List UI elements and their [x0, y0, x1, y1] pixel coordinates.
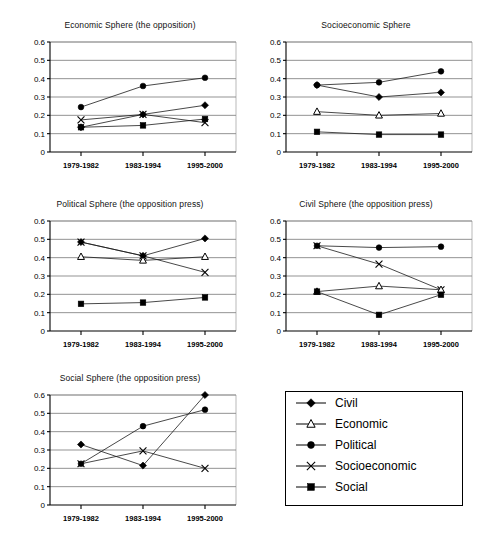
- legend-item-socioeconomic[interactable]: Socioeconomic: [286, 455, 462, 476]
- marker-circle: [376, 245, 382, 251]
- y-axis-tick-label: 0.3: [34, 272, 46, 281]
- marker-square: [438, 292, 444, 298]
- y-axis-tick-label: 0.6: [270, 217, 282, 226]
- marker-square: [78, 124, 84, 130]
- chart-title: Civil Sphere (the opposition press): [250, 199, 482, 209]
- y-axis-tick-label: 0.5: [34, 235, 46, 244]
- figure-sheet: Economic Sphere (the opposition) 00.10.2…: [0, 0, 490, 539]
- chart-panel-civil-sphere: Civil Sphere (the opposition press) 00.1…: [250, 199, 482, 371]
- series-line-civil: [81, 395, 205, 466]
- x-axis-tick-label: 1979-1982: [299, 161, 335, 170]
- marker-square: [202, 116, 208, 122]
- y-axis-tick-label: 0.3: [34, 446, 46, 455]
- marker-circle: [376, 79, 382, 85]
- marker-circle: [140, 423, 146, 429]
- y-axis-tick-label: 0.5: [270, 56, 282, 65]
- marker-circle: [140, 83, 146, 89]
- y-axis-tick-label: 0: [277, 327, 282, 336]
- chart-panel-economic-sphere: Economic Sphere (the opposition) 00.10.2…: [14, 20, 246, 192]
- marker-circle: [78, 104, 84, 110]
- legend-item-label: Socioeconomic: [335, 459, 416, 473]
- chart-svg-1: 00.10.20.30.40.50.61979-19821983-1994199…: [250, 30, 482, 182]
- chart-svg-3: 00.10.20.30.40.50.61979-19821983-1994199…: [250, 209, 482, 361]
- marker-square: [140, 300, 146, 306]
- chart-svg-4: 00.10.20.30.40.50.61979-19821983-1994199…: [14, 383, 246, 535]
- marker-triangle: [78, 253, 85, 259]
- y-axis-tick-label: 0.6: [270, 38, 282, 47]
- marker-circle: [438, 68, 444, 74]
- chart-title: Economic Sphere (the opposition): [14, 20, 246, 30]
- x-axis-tick-label: 1983-1994: [125, 161, 162, 170]
- legend-item-civil[interactable]: Civil: [286, 392, 462, 413]
- x-axis-tick-label: 1995-2000: [187, 340, 223, 349]
- x-axis-tick-label: 1983-1994: [361, 340, 398, 349]
- chart-panel-socioeconomic-sphere: Socioeconomic Sphere 00.10.20.30.40.50.6…: [250, 20, 482, 192]
- y-axis-tick-label: 0: [277, 148, 282, 157]
- marker-triangle: [438, 110, 445, 116]
- marker-triangle: [202, 253, 209, 259]
- marker-square: [78, 301, 84, 307]
- y-axis-tick-label: 0.1: [270, 309, 282, 318]
- chart-plot: 00.10.20.30.40.50.61979-19821983-1994199…: [14, 383, 246, 535]
- y-axis-tick-label: 0.1: [270, 130, 282, 139]
- marker-circle: [438, 244, 444, 250]
- chart-legend: CivilEconomicPoliticalSocioeconomicSocia…: [285, 391, 463, 506]
- x-axis-tick-label: 1983-1994: [361, 161, 398, 170]
- chart-title: Political Sphere (the opposition press): [14, 199, 246, 209]
- x-axis-tick-label: 1995-2000: [187, 161, 223, 170]
- y-axis-tick-label: 0.2: [34, 290, 46, 299]
- marker-diamond: [201, 102, 208, 109]
- chart-plot: 00.10.20.30.40.50.61979-19821983-1994199…: [14, 209, 246, 361]
- marker-square: [308, 483, 315, 490]
- legend-marker-x-icon: [294, 459, 328, 473]
- marker-square: [314, 129, 320, 135]
- legend-item-social[interactable]: Social: [286, 476, 462, 497]
- legend-item-economic[interactable]: Economic: [286, 413, 462, 434]
- legend-item-label: Political: [335, 438, 376, 452]
- legend-item-label: Economic: [335, 417, 388, 431]
- x-axis-tick-label: 1995-2000: [187, 514, 223, 523]
- marker-square: [438, 132, 444, 138]
- series-line-political: [81, 78, 205, 107]
- series-line-social: [317, 292, 441, 315]
- chart-plot: 00.10.20.30.40.50.61979-19821983-1994199…: [250, 30, 482, 182]
- marker-square: [314, 289, 320, 295]
- marker-square: [376, 132, 382, 138]
- marker-diamond: [437, 89, 444, 96]
- marker-x: [202, 269, 209, 276]
- chart-title: Socioeconomic Sphere: [250, 20, 482, 30]
- legend-marker-circle-icon: [294, 438, 328, 452]
- chart-plot: 00.10.20.30.40.50.61979-19821983-1994199…: [250, 209, 482, 361]
- marker-square: [202, 295, 208, 301]
- y-axis-tick-label: 0.2: [34, 464, 46, 473]
- chart-svg-2: 00.10.20.30.40.50.61979-19821983-1994199…: [14, 209, 246, 361]
- y-axis-tick-label: 0: [41, 327, 46, 336]
- y-axis-tick-label: 0.3: [270, 272, 282, 281]
- x-axis-tick-label: 1979-1982: [63, 340, 99, 349]
- marker-triangle: [376, 282, 383, 288]
- marker-circle: [314, 82, 320, 88]
- marker-circle: [202, 407, 208, 413]
- legend-item-label: Social: [335, 480, 368, 494]
- legend-item-political[interactable]: Political: [286, 434, 462, 455]
- marker-diamond: [307, 398, 315, 406]
- legend-marker-square-icon: [294, 480, 328, 494]
- chart-panel-political-sphere: Political Sphere (the opposition press) …: [14, 199, 246, 371]
- marker-diamond: [201, 235, 208, 242]
- y-axis-tick-label: 0.5: [34, 56, 46, 65]
- x-axis-tick-label: 1995-2000: [423, 340, 459, 349]
- y-axis-tick-label: 0.4: [34, 428, 46, 437]
- y-axis-tick-label: 0.4: [270, 75, 282, 84]
- marker-circle: [202, 75, 208, 81]
- legend-marker-diamond-icon: [294, 396, 328, 410]
- x-axis-tick-label: 1979-1982: [299, 340, 335, 349]
- chart-panel-social-sphere: Social Sphere (the opposition press) 00.…: [14, 373, 246, 539]
- y-axis-tick-label: 0.1: [34, 130, 46, 139]
- y-axis-tick-label: 0.5: [34, 409, 46, 418]
- y-axis-tick-label: 0.6: [34, 38, 46, 47]
- marker-diamond: [375, 93, 382, 100]
- y-axis-tick-label: 0.3: [270, 93, 282, 102]
- legend-marker-triangle-icon: [294, 417, 328, 431]
- y-axis-tick-label: 0.3: [34, 93, 46, 102]
- x-axis-tick-label: 1983-1994: [125, 340, 162, 349]
